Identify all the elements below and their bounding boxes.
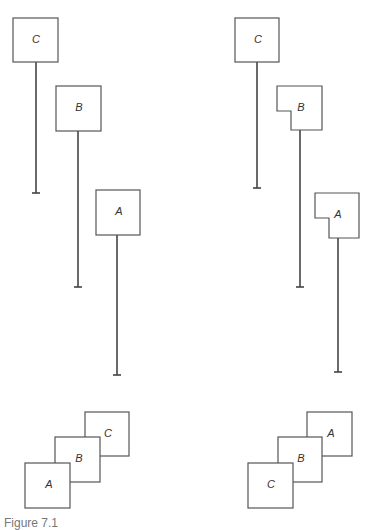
stack-right-label-c: C bbox=[267, 478, 275, 490]
right-timeline-a bbox=[334, 238, 342, 372]
stack-left-label-c: C bbox=[104, 427, 112, 439]
left-label-c: C bbox=[32, 33, 40, 45]
left-timeline-c bbox=[32, 62, 40, 193]
stack-left-label-b: B bbox=[75, 452, 82, 464]
figure-caption: Figure 7.1 bbox=[4, 516, 58, 530]
stack-left-label-a: A bbox=[44, 478, 52, 490]
left-label-a: A bbox=[114, 205, 122, 217]
right-timeline-c bbox=[253, 62, 261, 188]
right-label-b: B bbox=[297, 101, 304, 113]
stack-right-label-a: A bbox=[326, 427, 334, 439]
right-label-a: A bbox=[333, 208, 341, 220]
stack-right-label-b: B bbox=[297, 452, 304, 464]
right-label-c: C bbox=[254, 33, 262, 45]
right-timeline-b bbox=[296, 130, 304, 287]
left-timeline-b bbox=[74, 131, 82, 287]
left-label-b: B bbox=[75, 101, 82, 113]
left-timeline-a bbox=[113, 235, 121, 375]
